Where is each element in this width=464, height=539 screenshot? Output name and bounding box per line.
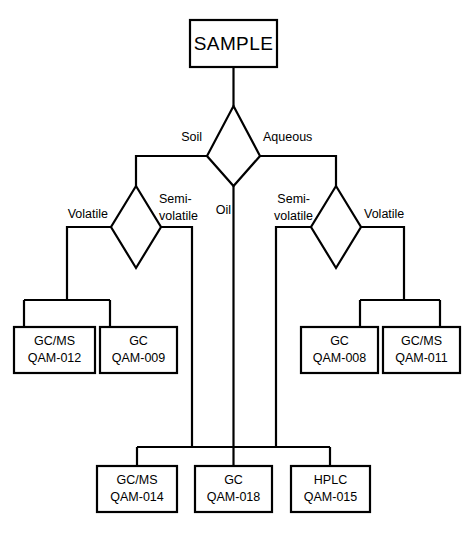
node-gc-qam018-line2: QAM-018 [207,490,261,504]
connector-aqueous-volatile [361,227,404,300]
edge-label-semivolatile-soil-line2: volatile [159,209,198,223]
node-gc-qam008-line2: QAM-008 [313,351,367,365]
node-gc-qam009[interactable]: GC QAM-009 [100,327,177,373]
node-gc-qam018-line1: GC [224,473,243,487]
edge-label-volatile-soil: Volatile [68,207,108,221]
node-matrix-decision[interactable] [207,106,260,186]
node-gcms-qam014-line1: GC/MS [117,473,158,487]
node-gc-qam009-line2: QAM-009 [112,351,166,365]
node-gc-qam009-line1: GC [129,334,148,348]
node-gcms-qam014[interactable]: GC/MS QAM-014 [97,466,177,512]
connector-aqueous-branch [260,156,336,186]
node-gcms-qam012-line1: GC/MS [34,334,75,348]
node-gcms-qam011[interactable]: GC/MS QAM-011 [383,327,460,373]
node-gcms-qam014-line2: QAM-014 [110,490,164,504]
node-soil-decision[interactable] [111,186,161,268]
node-gcms-qam011-line2: QAM-011 [395,351,448,365]
connector-soil-branch [136,156,207,186]
flowchart-canvas: SAMPLE GC/MS QAM-012 GC QAM-009 GC Q [0,0,464,539]
node-matrix-diamond [207,106,260,186]
node-aqueous-decision[interactable] [311,186,361,268]
edge-label-semivolatile-soil-line1: Semi- [159,192,192,206]
node-gc-qam008[interactable]: GC QAM-008 [301,327,378,373]
node-gcms-qam012[interactable]: GC/MS QAM-012 [14,327,95,373]
node-sample[interactable]: SAMPLE [190,20,277,67]
node-sample-label: SAMPLE [194,33,274,54]
node-aqueous-diamond [311,186,361,268]
connector-soil-volatile [67,227,111,300]
node-hplc-qam015-line1: HPLC [314,473,347,487]
edge-label-soil: Soil [181,130,202,144]
node-hplc-qam015[interactable]: HPLC QAM-015 [291,466,370,512]
edge-label-semivolatile-aqueous-line2: volatile [274,209,313,223]
node-gc-qam008-line1: GC [330,334,349,348]
edge-label-volatile-aqueous: Volatile [364,207,404,221]
node-soil-diamond [111,186,161,268]
edge-label-oil: Oil [216,203,231,217]
sample-analysis-flowchart: SAMPLE GC/MS QAM-012 GC QAM-009 GC Q [0,0,464,539]
node-gcms-qam012-line2: QAM-012 [28,351,82,365]
edge-label-aqueous: Aqueous [263,130,312,144]
node-gc-qam018[interactable]: GC QAM-018 [195,466,272,512]
node-gcms-qam011-line1: GC/MS [401,334,442,348]
edge-label-semivolatile-aqueous-line1: Semi- [277,192,310,206]
node-hplc-qam015-line2: QAM-015 [304,490,358,504]
